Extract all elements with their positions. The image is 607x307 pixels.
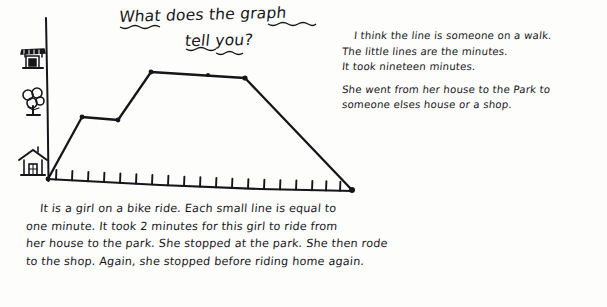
shop-front [26,56,39,68]
worksheet-page: What does the graph tell you? I think th… [0,0,607,307]
answer-line: She went from her house to the Park to [341,82,605,98]
data-point [242,75,247,80]
journey-points [46,70,355,193]
answer-line: to the shop. Again, she stopped before r… [25,253,587,271]
data-point [149,70,154,75]
data-point [206,73,210,77]
answer-line: It took nineteen minutes. [341,59,605,75]
paragraph-gap [342,75,604,82]
shop-icon [21,49,45,68]
tree-leaf [23,90,33,100]
house-roof [19,150,47,160]
data-point [349,187,355,193]
data-point [80,115,85,120]
data-point [116,118,121,123]
tree-branch [28,107,39,110]
answer-line: her house to the park. She stopped at th… [25,235,587,253]
y-axis-line [46,18,49,181]
shop-awning [21,49,45,54]
answer-line: someone elses house or a shop. [341,97,605,113]
page-title-line-1: What does the graph [118,4,287,26]
house-icon [19,147,47,175]
data-point [46,177,51,182]
tree-leaf [36,97,44,105]
house-door [29,164,37,175]
answer-line: The little lines are the minutes. [341,44,605,60]
house-walls [24,160,42,175]
tree-park-icon [23,88,44,115]
shop-window [29,59,36,66]
x-axis-ticks [56,170,340,191]
tree-leaf [27,98,37,108]
answer-line: I think the line is someone on a walk. [341,28,605,44]
student-answer-bottom: It is a girl on a bike ride. Each small … [26,200,586,270]
answer-line: It is a girl on a bike ride. Each small … [25,200,587,218]
journey-line [48,72,352,190]
answer-line: one minute. It took 2 minutes for this g… [25,218,587,236]
student-answer-right: I think the line is someone on a walk. T… [342,28,604,113]
page-title-line-2: tell you? [184,31,254,50]
page-title: What does the graph tell you? [118,6,348,64]
x-axis-line [47,179,353,191]
tree-leaf [32,88,42,98]
